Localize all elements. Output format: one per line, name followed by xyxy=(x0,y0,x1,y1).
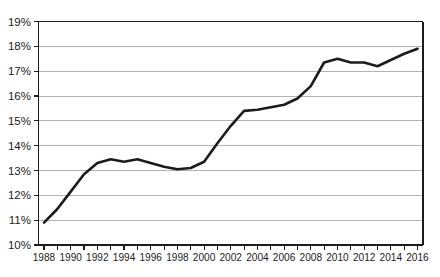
line-chart: 10%11%12%13%14%15%16%17%18%19%1988199019… xyxy=(0,0,440,277)
y-tick-label-19: 19% xyxy=(8,16,31,28)
x-tick-label-2006: 2006 xyxy=(273,251,296,263)
x-tick-label-2014: 2014 xyxy=(380,251,403,263)
x-tick-label-1992: 1992 xyxy=(86,251,109,263)
y-tick-label-15: 15% xyxy=(8,115,31,127)
x-tick-label-1988: 1988 xyxy=(33,251,56,263)
y-tick-label-18: 18% xyxy=(8,40,31,52)
y-tick-label-16: 16% xyxy=(8,90,31,102)
x-axis: 1988199019921994199619982000200220042006… xyxy=(33,245,429,263)
x-tick-label-1990: 1990 xyxy=(59,251,82,263)
x-tick-label-2016: 2016 xyxy=(406,251,429,263)
plot-frame xyxy=(39,22,424,246)
x-tick-label-2008: 2008 xyxy=(300,251,323,263)
y-tick-label-10: 10% xyxy=(8,239,31,251)
x-tick-label-2010: 2010 xyxy=(326,251,349,263)
axes xyxy=(39,22,424,246)
y-tick-label-12: 12% xyxy=(8,189,31,201)
y-tick-label-14: 14% xyxy=(8,140,31,152)
x-tick-label-2012: 2012 xyxy=(353,251,376,263)
y-axis: 10%11%12%13%14%15%16%17%18%19% xyxy=(8,16,39,252)
gridlines xyxy=(39,46,424,220)
data-line-percentage-series xyxy=(44,49,418,223)
x-tick-label-1998: 1998 xyxy=(166,251,189,263)
y-tick-label-13: 13% xyxy=(8,165,31,177)
y-tick-label-11: 11% xyxy=(9,214,31,226)
y-tick-label-17: 17% xyxy=(8,65,31,77)
x-tick-label-2002: 2002 xyxy=(220,251,243,263)
line-chart-figure: 10%11%12%13%14%15%16%17%18%19%1988199019… xyxy=(0,0,440,277)
x-tick-label-2004: 2004 xyxy=(246,251,269,263)
x-tick-label-1996: 1996 xyxy=(139,251,162,263)
x-tick-label-2000: 2000 xyxy=(193,251,216,263)
x-tick-label-1994: 1994 xyxy=(113,251,136,263)
